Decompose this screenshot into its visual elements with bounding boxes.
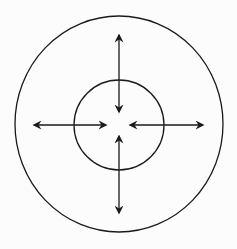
arrows-group: [34, 35, 203, 213]
diagram-canvas: [0, 0, 237, 249]
